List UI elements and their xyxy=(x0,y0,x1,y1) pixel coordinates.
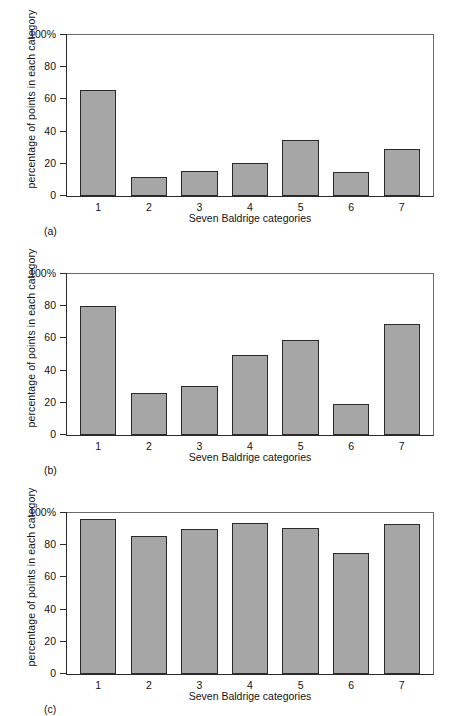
y-tick-label-20: 20 xyxy=(44,396,56,408)
y-tick-label-100: 100% xyxy=(29,28,56,40)
y-tick-label-60: 60 xyxy=(44,331,56,343)
bar-slot: 7 xyxy=(376,274,427,435)
y-tick-0: 0 xyxy=(60,195,67,196)
bar-slot: 3 xyxy=(174,274,225,435)
x-axis-title-b: Seven Baldrige categories xyxy=(66,451,434,463)
bar-category-2 xyxy=(131,177,167,196)
y-tick-label-60: 60 xyxy=(44,92,56,104)
y-tick-label-40: 40 xyxy=(44,125,56,137)
bar-slot: 1 xyxy=(73,513,124,674)
y-tick-label-100: 100% xyxy=(29,506,56,518)
y-tick-60: 60 xyxy=(60,98,67,99)
panel-caption-a: (a) xyxy=(44,225,57,237)
y-tick-label-80: 80 xyxy=(44,538,56,550)
bar-slot: 3 xyxy=(174,35,225,196)
bar-slot: 4 xyxy=(225,513,276,674)
y-tick-0: 0 xyxy=(60,673,67,674)
y-tick-label-0: 0 xyxy=(50,428,56,440)
bar-category-3 xyxy=(181,171,217,196)
y-tick-label-0: 0 xyxy=(50,667,56,679)
bar-category-1 xyxy=(80,306,116,435)
y-tick-100: 100% xyxy=(60,273,67,274)
bar-slot: 5 xyxy=(275,35,326,196)
bars-container-c: 1234567 xyxy=(67,513,433,674)
bar-category-2 xyxy=(131,536,167,674)
y-tick-40: 40 xyxy=(60,609,67,610)
bar-slot: 2 xyxy=(124,35,175,196)
y-tick-60: 60 xyxy=(60,576,67,577)
bar-slot: 7 xyxy=(376,513,427,674)
y-tick-label-20: 20 xyxy=(44,635,56,647)
bars-container-b: 1234567 xyxy=(67,274,433,435)
bar-slot: 6 xyxy=(326,35,377,196)
plot-area-c: 1234567 020406080100% xyxy=(66,512,434,675)
bar-slot: 7 xyxy=(376,35,427,196)
y-tick-label-40: 40 xyxy=(44,603,56,615)
bar-chart-panel-a: percentage of points in each category 12… xyxy=(0,0,451,238)
bar-category-1 xyxy=(80,519,116,674)
y-tick-label-80: 80 xyxy=(44,299,56,311)
y-tick-label-80: 80 xyxy=(44,60,56,72)
y-tick-label-0: 0 xyxy=(50,189,56,201)
bar-chart-panel-c: percentage of points in each category 12… xyxy=(0,478,451,716)
bar-category-6 xyxy=(333,404,369,435)
y-tick-label-20: 20 xyxy=(44,157,56,169)
y-tick-80: 80 xyxy=(60,66,67,67)
bar-category-5 xyxy=(282,340,318,435)
bar-category-7 xyxy=(384,324,420,435)
y-tick-label-100: 100% xyxy=(29,267,56,279)
y-tick-80: 80 xyxy=(60,544,67,545)
y-tick-20: 20 xyxy=(60,641,67,642)
bar-category-4 xyxy=(232,523,268,674)
panel-caption-c: (c) xyxy=(44,703,56,715)
bar-slot: 1 xyxy=(73,274,124,435)
bar-slot: 4 xyxy=(225,274,276,435)
bar-category-2 xyxy=(131,393,167,435)
panel-caption-b: (b) xyxy=(44,464,57,476)
bar-slot: 1 xyxy=(73,35,124,196)
y-tick-0: 0 xyxy=(60,434,67,435)
bar-category-1 xyxy=(80,90,116,196)
y-tick-20: 20 xyxy=(60,402,67,403)
bar-chart-panel-b: percentage of points in each category 12… xyxy=(0,239,451,477)
bar-slot: 2 xyxy=(124,274,175,435)
y-tick-40: 40 xyxy=(60,370,67,371)
y-tick-label-40: 40 xyxy=(44,364,56,376)
bar-category-3 xyxy=(181,529,217,674)
bar-slot: 6 xyxy=(326,513,377,674)
bar-category-6 xyxy=(333,172,369,196)
y-tick-20: 20 xyxy=(60,163,67,164)
bar-slot: 2 xyxy=(124,513,175,674)
y-tick-80: 80 xyxy=(60,305,67,306)
y-tick-40: 40 xyxy=(60,131,67,132)
bar-slot: 6 xyxy=(326,274,377,435)
bar-slot: 5 xyxy=(275,513,326,674)
bar-category-7 xyxy=(384,149,420,196)
plot-area-b: 1234567 020406080100% xyxy=(66,273,434,436)
x-axis-title-c: Seven Baldrige categories xyxy=(66,690,434,702)
y-tick-100: 100% xyxy=(60,512,67,513)
bar-category-4 xyxy=(232,355,268,436)
bar-category-6 xyxy=(333,553,369,674)
bar-slot: 4 xyxy=(225,35,276,196)
bar-category-4 xyxy=(232,163,268,196)
bar-slot: 3 xyxy=(174,513,225,674)
bar-slot: 5 xyxy=(275,274,326,435)
y-tick-100: 100% xyxy=(60,34,67,35)
bar-category-5 xyxy=(282,528,318,674)
plot-area-a: 1234567 020406080100% xyxy=(66,34,434,197)
bars-container-a: 1234567 xyxy=(67,35,433,196)
x-axis-title-a: Seven Baldrige categories xyxy=(66,212,434,224)
bar-category-3 xyxy=(181,386,217,435)
bar-category-7 xyxy=(384,524,420,674)
y-tick-60: 60 xyxy=(60,337,67,338)
bar-category-5 xyxy=(282,140,318,196)
y-tick-label-60: 60 xyxy=(44,570,56,582)
